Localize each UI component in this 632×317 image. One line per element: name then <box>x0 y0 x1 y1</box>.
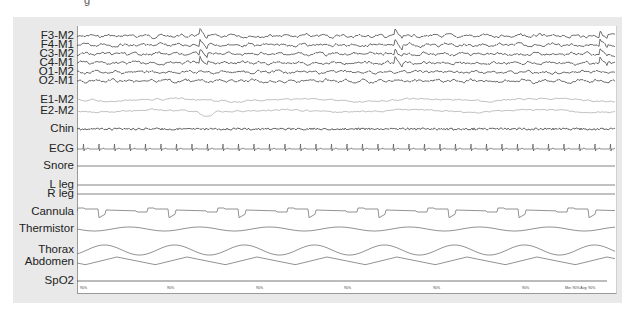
spo2-tick-label: 90% <box>256 286 263 290</box>
waveform <box>77 56 615 67</box>
spo2-tick-label: 90% <box>522 286 529 290</box>
spo2-tick-label: 90% <box>344 286 351 290</box>
waveform <box>77 49 615 58</box>
spo2-summary: Min: 90% Avg: 90% <box>565 286 595 290</box>
channel-label: SpO2 <box>45 275 74 286</box>
spo2-tick-label: 90% <box>80 286 87 290</box>
waveform <box>77 98 615 103</box>
waveform <box>77 78 615 84</box>
waveform <box>77 39 615 50</box>
spo2-tick-label: 90% <box>167 286 174 290</box>
waveform-traces <box>77 26 615 293</box>
channel-label: Cannula <box>31 206 74 217</box>
channel-label: Thorax <box>38 244 74 255</box>
channel-label: Chin <box>50 123 74 134</box>
channel-label: ECG <box>49 143 74 154</box>
waveform <box>77 109 615 117</box>
channel-label: O2-M1 <box>39 75 74 86</box>
waveform <box>77 257 615 265</box>
channel-label: E2-M2 <box>40 105 74 116</box>
waveform <box>77 29 615 39</box>
channel-label: Abdomen <box>25 256 74 267</box>
waveform <box>77 128 615 130</box>
channel-label: R leg <box>47 188 74 199</box>
channel-label: Snore <box>43 160 74 171</box>
waveform <box>77 70 615 75</box>
waveform <box>77 144 615 151</box>
waveform <box>77 245 615 255</box>
caption-fragment: g <box>84 0 90 6</box>
spo2-tick-label: 90% <box>433 286 440 290</box>
channel-label: Thermistor <box>19 223 74 234</box>
waveform <box>77 227 615 231</box>
waveform <box>77 208 615 218</box>
